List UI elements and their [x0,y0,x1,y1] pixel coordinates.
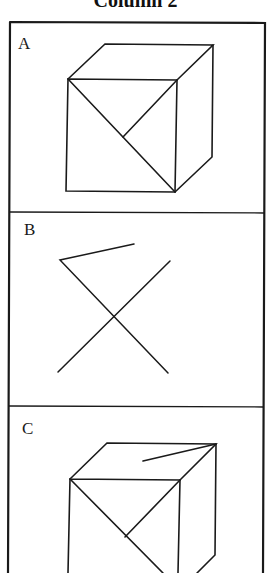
answer-options-diagram: A B C [0,0,271,573]
panel-b-figure [58,244,170,373]
divider-ab [10,212,264,213]
panel-c-figure [68,443,216,573]
panel-a-figure [66,44,213,192]
outer-frame [8,22,265,573]
panel-b-label: B [24,220,35,239]
panel-a-label: A [18,34,31,53]
divider-bc [9,406,263,407]
panel-c-label: C [22,419,33,438]
